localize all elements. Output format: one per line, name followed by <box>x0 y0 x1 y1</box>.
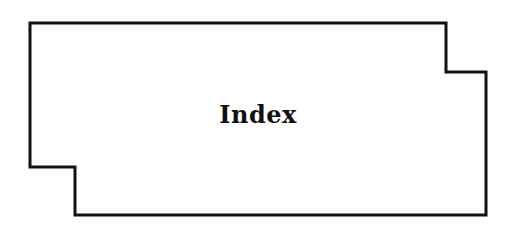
index-label: Index <box>0 98 516 132</box>
